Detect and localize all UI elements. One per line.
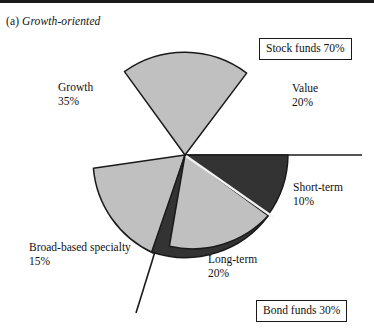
slice-label-short-term-pct: 10% [293,195,343,209]
slice-label-growth: Growth 35% [58,81,93,108]
callout-stock-funds: Stock funds 70% [259,38,352,60]
slice-label-value: Value 20% [292,82,318,109]
slice-label-short-term: Short-term 10% [293,181,343,208]
slice-label-long-term-pct: 20% [208,267,257,281]
slice-label-value-name: Value [292,82,318,94]
slice-label-growth-name: Growth [58,81,93,93]
slice-label-growth-pct: 35% [58,95,93,109]
pie-slice-value [124,14,264,155]
slice-label-broad-based-pct: 15% [29,255,131,269]
slice-label-long-term-name: Long-term [208,253,257,265]
slice-label-broad-based-name: Broad-based specialty [29,241,131,253]
callout-bond-funds: Bond funds 30% [256,300,347,322]
slice-label-long-term: Long-term 20% [208,253,257,280]
slice-label-short-term-name: Short-term [293,181,343,193]
slice-label-broad-based: Broad-based specialty 15% [29,241,131,268]
figure-panel: (a) Growth-oriented Growth 35% Value 20%… [0,0,374,331]
slice-label-value-pct: 20% [292,96,318,110]
